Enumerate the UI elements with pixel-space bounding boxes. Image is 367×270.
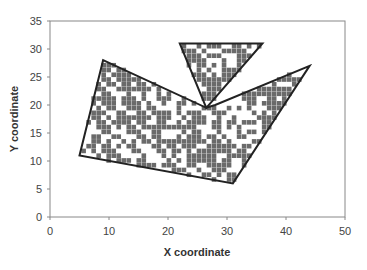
- x-axis-title: X coordinate: [164, 246, 231, 258]
- x-tick-label: 30: [221, 225, 233, 237]
- y-tick-label: 25: [30, 71, 42, 83]
- y-tick-label: 35: [30, 15, 42, 27]
- y-tick-label: 5: [36, 183, 42, 195]
- y-tick-label: 30: [30, 43, 42, 55]
- y-axis-title: Y coordinate: [8, 86, 20, 152]
- y-tick-label: 10: [30, 155, 42, 167]
- y-tick-label: 20: [30, 99, 42, 111]
- x-tick-label: 50: [339, 225, 351, 237]
- x-tick-label: 0: [47, 225, 53, 237]
- x-axis-ticks: 01020304050: [47, 217, 351, 237]
- y-axis-ticks: 05101520253035: [30, 15, 50, 223]
- x-tick-label: 40: [280, 225, 292, 237]
- y-tick-label: 15: [30, 127, 42, 139]
- scatter-chart: 05101520253035 01020304050 X coordinate …: [0, 0, 367, 270]
- y-tick-label: 0: [36, 211, 42, 223]
- x-tick-label: 10: [103, 225, 115, 237]
- x-tick-label: 20: [162, 225, 174, 237]
